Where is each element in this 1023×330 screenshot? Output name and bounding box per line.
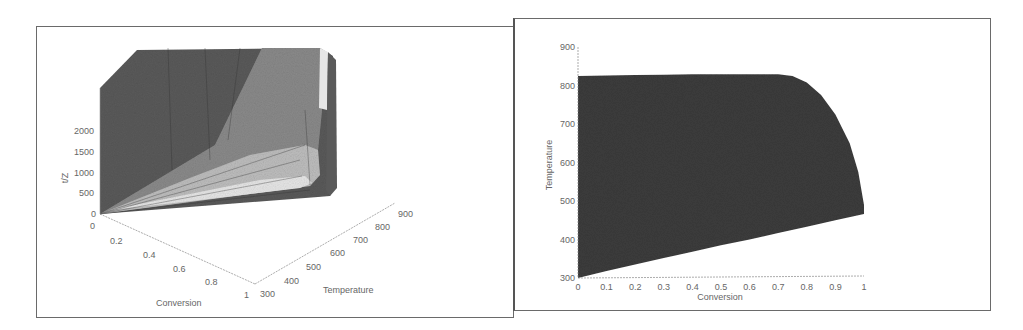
- temp-tick-800: 800: [375, 222, 390, 232]
- y-tick-400: 400: [560, 235, 575, 245]
- charts-canvas: 0 500 1000 1500 2000 t/Z 0 0.2 0.4 0.6 0…: [0, 0, 1023, 330]
- feasible-region-area: [578, 74, 864, 278]
- z-tick-500: 500: [79, 188, 94, 198]
- x-tick-0.5: 0.5: [715, 282, 728, 292]
- y-tick-600: 600: [560, 158, 575, 168]
- x-axis-line: [578, 276, 864, 278]
- feasible-region-plot: 300400500600700800900 00.10.20.30.40.50.…: [544, 42, 867, 302]
- y-tick-800: 800: [560, 81, 575, 91]
- x-tick-0.1: 0.1: [600, 282, 613, 292]
- x-tick-0.8: 0.8: [801, 282, 814, 292]
- y-tick-500: 500: [560, 196, 575, 206]
- z-tick-1000: 1000: [74, 168, 94, 178]
- x-tick-1: 1: [861, 282, 866, 292]
- temp-tick-600: 600: [330, 248, 345, 258]
- y-axis-ticks: 300400500600700800900: [560, 42, 575, 283]
- x-tick-0.4: 0.4: [686, 282, 699, 292]
- x-tick-0.7: 0.7: [772, 282, 785, 292]
- y-axis-label: Temperature: [544, 140, 554, 191]
- temp-tick-500: 500: [306, 262, 321, 272]
- conv-tick-0.8: 0.8: [205, 277, 218, 287]
- conv-tick-0.2: 0.2: [110, 236, 123, 246]
- conv-tick-0.6: 0.6: [173, 264, 186, 274]
- y-tick-900: 900: [560, 42, 575, 52]
- x-tick-0.3: 0.3: [658, 282, 671, 292]
- x-axis-ticks: 00.10.20.30.40.50.60.70.80.91: [575, 282, 866, 292]
- x-tick-0.9: 0.9: [829, 282, 842, 292]
- conv-tick-0.4: 0.4: [143, 250, 156, 260]
- z-tick-2000: 2000: [74, 126, 94, 136]
- z-tick-0: 0: [91, 209, 96, 219]
- temp-tick-900: 900: [398, 209, 413, 219]
- z-axis-label: t/Z: [60, 172, 70, 183]
- x-tick-0.6: 0.6: [743, 282, 756, 292]
- conversion-axis-3d: 0 0.2 0.4 0.6 0.8 1 Conversion: [90, 214, 255, 308]
- y-tick-700: 700: [560, 119, 575, 129]
- conv-tick-1: 1: [244, 290, 249, 300]
- surface-edge-strip: [319, 48, 328, 110]
- x-axis-label: Conversion: [697, 292, 743, 302]
- temp-tick-300: 300: [260, 289, 275, 299]
- surface-3d-plot: 0 500 1000 1500 2000 t/Z 0 0.2 0.4 0.6 0…: [60, 48, 413, 308]
- conv-tick-0: 0: [90, 221, 95, 231]
- z-axis: 0 500 1000 1500 2000 t/Z: [60, 88, 100, 219]
- z-tick-1500: 1500: [74, 147, 94, 157]
- y-tick-300: 300: [560, 273, 575, 283]
- temp-tick-400: 400: [284, 276, 299, 286]
- temp-tick-700: 700: [353, 235, 368, 245]
- conv-axis-label: Conversion: [156, 298, 202, 308]
- temperature-axis-3d: 300 400 500 600 700 800 900 Temperature: [255, 203, 413, 299]
- x-tick-0.2: 0.2: [629, 282, 642, 292]
- x-tick-0: 0: [575, 282, 580, 292]
- temp-axis-label: Temperature: [323, 285, 374, 295]
